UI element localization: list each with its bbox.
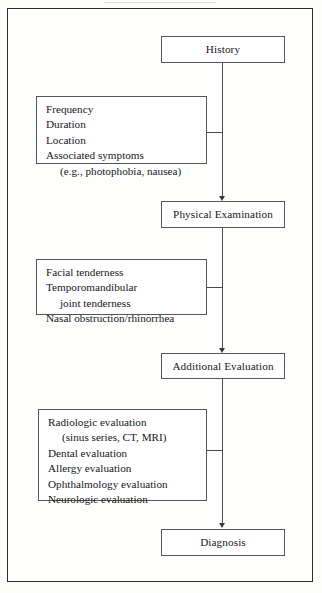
node-physical-examination[interactable]: Physical Examination xyxy=(161,201,285,228)
detail-line: Allergy evaluation xyxy=(48,461,199,476)
detail-line: (sinus series, CT, MRI) xyxy=(48,430,199,445)
detail-line: Associated symptoms xyxy=(46,148,199,163)
node-diagnosis-label: Diagnosis xyxy=(200,536,246,548)
detail-line: Duration xyxy=(46,117,199,132)
connector-history-to-physical xyxy=(222,63,223,197)
branch-to-physical-examination-details xyxy=(207,287,223,288)
diagram-frame: History Physical Examination Additional … xyxy=(7,8,313,582)
connector-physical-to-additional xyxy=(222,228,223,350)
node-additional-evaluation-label: Additional Evaluation xyxy=(172,360,273,372)
connector-additional-to-diagnosis xyxy=(222,379,223,525)
detail-line: Ophthalmology evaluation xyxy=(48,477,199,492)
detail-box-history-details[interactable]: Frequency Duration Location Associated s… xyxy=(36,96,207,164)
node-physical-examination-label: Physical Examination xyxy=(173,208,273,220)
node-history[interactable]: History xyxy=(161,36,285,63)
detail-box-additional-evaluation-details[interactable]: Radiologic evaluation (sinus series, CT,… xyxy=(38,409,207,501)
detail-line: Neurologic evaluation xyxy=(48,492,199,507)
arrowhead-into-diagnosis xyxy=(219,523,225,528)
branch-to-history-details xyxy=(207,132,223,133)
branch-to-additional-evaluation-details xyxy=(207,450,223,451)
scan-artifact-top xyxy=(104,2,216,3)
detail-line: Location xyxy=(46,133,199,148)
detail-line: (e.g., photophobia, nausea) xyxy=(46,164,199,179)
detail-line: joint tenderness xyxy=(46,296,199,311)
detail-line: Nasal obstruction/rhinorrhea xyxy=(46,311,199,326)
node-history-label: History xyxy=(206,43,240,55)
detail-line: Radiologic evaluation xyxy=(48,415,199,430)
detail-line: Facial tenderness xyxy=(46,265,199,280)
diagram-canvas: History Physical Examination Additional … xyxy=(0,0,322,593)
node-additional-evaluation[interactable]: Additional Evaluation xyxy=(161,353,285,379)
node-diagnosis[interactable]: Diagnosis xyxy=(161,529,285,556)
detail-box-physical-examination-details[interactable]: Facial tenderness Temporomandibular join… xyxy=(36,259,207,315)
detail-line: Frequency xyxy=(46,102,199,117)
detail-line: Dental evaluation xyxy=(48,446,199,461)
detail-line: Temporomandibular xyxy=(46,280,199,295)
